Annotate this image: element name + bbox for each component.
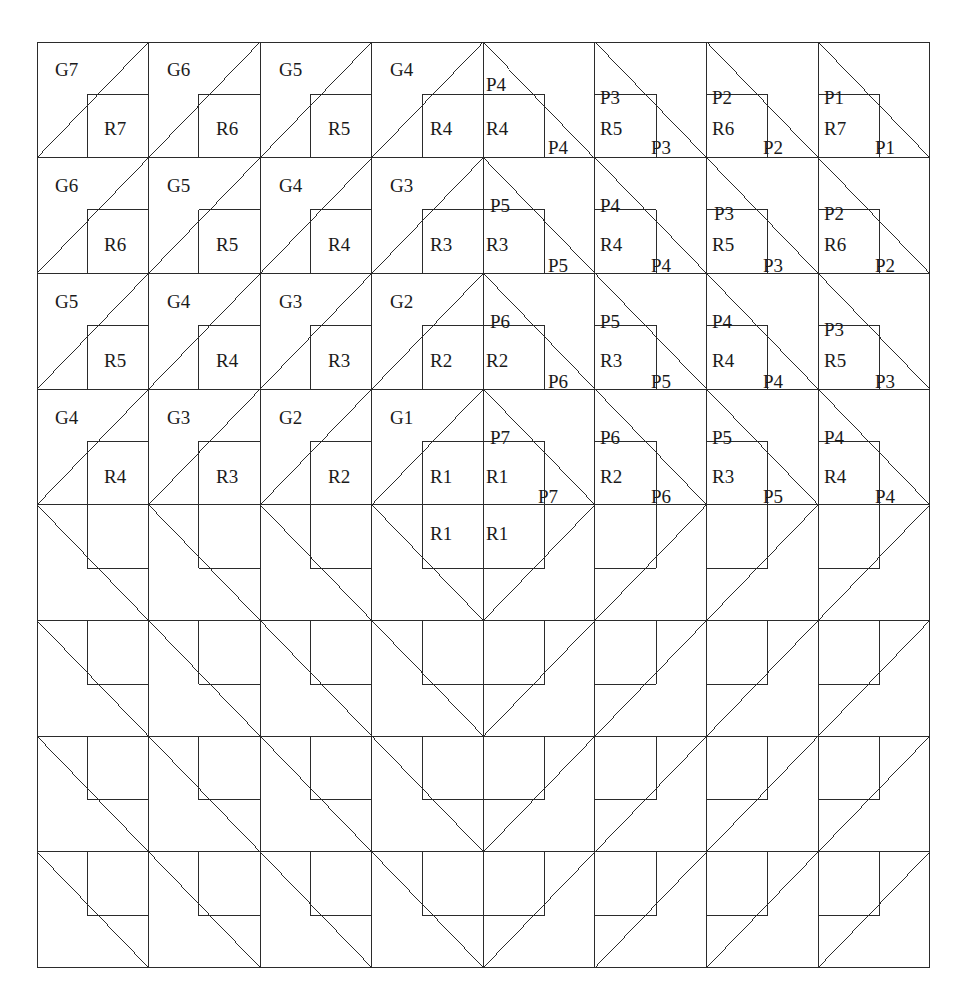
cell-diagonal-rising bbox=[595, 620, 707, 736]
r-label: R5 bbox=[824, 351, 846, 370]
cell-diagonal-rising bbox=[149, 42, 261, 158]
cell-diagonal-falling bbox=[37, 852, 149, 968]
cell-diagonal-rising bbox=[595, 852, 707, 968]
r-label: R5 bbox=[600, 119, 622, 138]
p-label: P6 bbox=[651, 487, 671, 506]
cell-diagonal-falling bbox=[372, 736, 484, 852]
cell-diagonal-falling bbox=[149, 852, 261, 968]
r-label: R4 bbox=[216, 351, 238, 370]
cell-diagonal-rising bbox=[707, 852, 819, 968]
cell-diagonal-falling bbox=[149, 505, 261, 621]
cell-diagonal-falling bbox=[260, 736, 372, 852]
g-label: G4 bbox=[390, 60, 413, 79]
r-label: R3 bbox=[712, 467, 734, 486]
g-label: G5 bbox=[55, 292, 78, 311]
p-label: P5 bbox=[651, 372, 671, 391]
cell-diagonal-rising bbox=[37, 158, 149, 274]
cell-diagonal-rising bbox=[372, 158, 484, 274]
cell-diagonal-falling bbox=[372, 505, 484, 621]
r-label: R5 bbox=[712, 235, 734, 254]
cell-diagonal-rising bbox=[818, 620, 930, 736]
cell-diagonal-rising bbox=[372, 42, 484, 158]
cell-diagonal-falling bbox=[260, 505, 372, 621]
p-label: P2 bbox=[712, 88, 732, 107]
p-label: P4 bbox=[600, 196, 620, 215]
cell-diagonal-rising bbox=[483, 852, 595, 968]
g-label: G5 bbox=[167, 176, 190, 195]
r-label: R1 bbox=[430, 467, 452, 486]
p-label: P6 bbox=[600, 428, 620, 447]
r-label: R5 bbox=[328, 119, 350, 138]
r-label: R5 bbox=[216, 235, 238, 254]
r-label: R4 bbox=[600, 235, 622, 254]
r-label: R7 bbox=[824, 119, 846, 138]
cell-diagonal-falling bbox=[260, 620, 372, 736]
p-label: P4 bbox=[875, 487, 895, 506]
r-label: R6 bbox=[824, 235, 846, 254]
p-label: P4 bbox=[824, 428, 844, 447]
g-label: G3 bbox=[390, 176, 413, 195]
p-label: P1 bbox=[824, 88, 844, 107]
g-label: G3 bbox=[167, 408, 190, 427]
cell-diagonal-falling bbox=[372, 852, 484, 968]
diagram-page: G7R7G6R6G5R5G4R4P4R4P4P3R5P3P2R6P2P1R7P1… bbox=[0, 0, 961, 1000]
r-label: R1 bbox=[486, 524, 508, 543]
cell-diagonal-rising bbox=[483, 620, 595, 736]
cell-diagonal-falling bbox=[37, 505, 149, 621]
p-label: P2 bbox=[763, 138, 783, 157]
cell-diagonal-rising bbox=[818, 736, 930, 852]
p-label: P3 bbox=[824, 320, 844, 339]
r-label: R4 bbox=[430, 119, 452, 138]
cell-diagonal-falling bbox=[37, 620, 149, 736]
cell-diagonal-rising bbox=[372, 273, 484, 389]
cell-diagonal-rising bbox=[595, 505, 707, 621]
r-label: R3 bbox=[486, 235, 508, 254]
r-label: R1 bbox=[486, 467, 508, 486]
r-label: R4 bbox=[328, 235, 350, 254]
p-label: P3 bbox=[763, 256, 783, 275]
r-label: R4 bbox=[824, 467, 846, 486]
p-label: P3 bbox=[714, 204, 734, 223]
p-label: P6 bbox=[490, 312, 510, 331]
g-label: G6 bbox=[55, 176, 78, 195]
r-label: R3 bbox=[600, 351, 622, 370]
cell-diagonal-rising bbox=[818, 852, 930, 968]
r-label: R3 bbox=[430, 235, 452, 254]
p-label: P6 bbox=[548, 372, 568, 391]
r-label: R4 bbox=[712, 351, 734, 370]
cell-diagonal-rising bbox=[260, 389, 372, 505]
cell-diagonal-rising bbox=[149, 158, 261, 274]
cell-diagonal-rising bbox=[707, 505, 819, 621]
cell-diagonal-falling bbox=[37, 736, 149, 852]
g-label: G4 bbox=[55, 408, 78, 427]
r-label: R5 bbox=[104, 351, 126, 370]
p-label: P5 bbox=[712, 428, 732, 447]
g-label: G3 bbox=[279, 292, 302, 311]
cell-diagonal-falling bbox=[483, 42, 595, 158]
cell-diagonal-rising bbox=[483, 736, 595, 852]
g-label: G1 bbox=[390, 408, 413, 427]
cell-diagonal-falling bbox=[149, 620, 261, 736]
r-label: R2 bbox=[600, 467, 622, 486]
p-label: P4 bbox=[486, 75, 506, 94]
cell-diagonal-rising bbox=[260, 273, 372, 389]
p-label: P5 bbox=[600, 312, 620, 331]
cell-diagonal-rising bbox=[707, 736, 819, 852]
cell-diagonal-falling bbox=[372, 620, 484, 736]
r-label: R4 bbox=[486, 119, 508, 138]
cell-diagonal-rising bbox=[818, 505, 930, 621]
p-label: P3 bbox=[600, 88, 620, 107]
p-label: P2 bbox=[875, 256, 895, 275]
p-label: P4 bbox=[712, 312, 732, 331]
cell-diagonal-rising bbox=[37, 273, 149, 389]
cell-diagonal-rising bbox=[595, 736, 707, 852]
p-label: P3 bbox=[651, 138, 671, 157]
p-label: P4 bbox=[548, 138, 568, 157]
r-label: R1 bbox=[430, 524, 452, 543]
cell-diagonal-rising bbox=[149, 389, 261, 505]
g-label: G4 bbox=[167, 292, 190, 311]
g-label: G7 bbox=[55, 60, 78, 79]
r-label: R7 bbox=[104, 119, 126, 138]
r-label: R2 bbox=[486, 351, 508, 370]
p-label: P4 bbox=[763, 372, 783, 391]
